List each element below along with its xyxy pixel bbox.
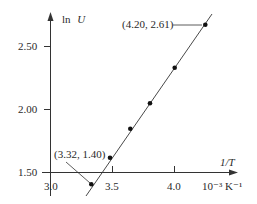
x-axis-label: 1/T: [220, 157, 235, 168]
data-point: [108, 155, 113, 160]
x-axis-arrow-icon: [229, 170, 238, 176]
data-point: [172, 65, 177, 70]
data-point: [128, 126, 133, 131]
data-point: [89, 182, 94, 187]
annotation-bottom-point: (3.32, 1.40): [54, 149, 105, 160]
x-axis-unit: 10⁻³ K⁻¹: [202, 181, 242, 192]
y-axis-arrow-icon: [48, 12, 54, 21]
y-tick-label-1.50: 1.50: [18, 167, 37, 178]
x-tick-label-3.0: 3.0: [44, 181, 58, 192]
annotation-top-point: (4.20, 2.61): [122, 19, 173, 30]
data-point: [148, 101, 153, 106]
y-axis-label-var: U: [77, 13, 85, 25]
plot-area: [0, 0, 257, 204]
y-tick-label-2.50: 2.50: [18, 41, 37, 52]
y-axis-label-prefix: ln: [62, 13, 71, 25]
y-tick-label-2.00: 2.00: [18, 104, 37, 115]
chart: ln U 2.50 2.00 1.50 3.0 3.5 4.0 1/T 10⁻³…: [0, 0, 257, 204]
data-point: [203, 22, 208, 27]
x-tick-label-4.0: 4.0: [167, 181, 181, 192]
x-tick-label-3.5: 3.5: [105, 181, 119, 192]
y-axis-label: ln U: [62, 14, 85, 25]
